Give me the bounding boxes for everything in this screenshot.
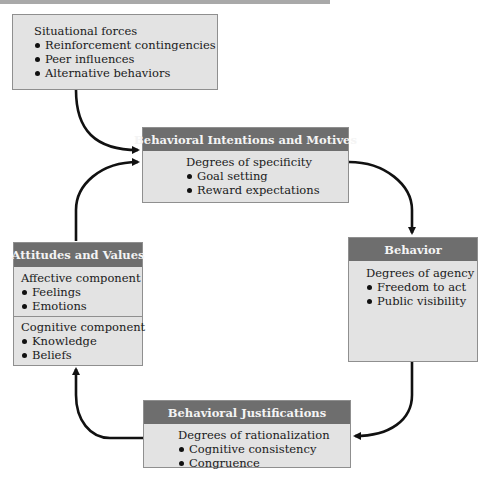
list-item: Public visibility: [366, 294, 477, 308]
list-item: Alternative behaviors: [34, 66, 217, 80]
justifications-subtitle: Degrees of rationalization: [178, 428, 350, 442]
list-item: Feelings: [21, 285, 142, 299]
behavior-subtitle: Degrees of agency: [366, 266, 477, 280]
bullet-icon: [187, 174, 192, 179]
attitudes-box: Attitudes and Values Affective component…: [13, 242, 143, 366]
list-item: Beliefs: [21, 348, 142, 362]
situational-title: Situational forces: [34, 24, 217, 38]
intentions-box: Behavioral Intentions and Motives Degree…: [142, 127, 349, 203]
justifications-header: Behavioral Justifications: [144, 401, 350, 424]
list-item: Peer influences: [34, 52, 217, 66]
bullet-icon: [35, 57, 40, 62]
justifications-box: Behavioral Justifications Degrees of rat…: [143, 400, 351, 468]
bullet-icon: [22, 339, 27, 344]
bullet-icon: [35, 71, 40, 76]
list-item: Reinforcement contingencies: [34, 38, 217, 52]
intentions-subtitle: Degrees of specificity: [186, 155, 348, 169]
arrow-situational-to-intentions: [76, 90, 138, 150]
list-item: Knowledge: [21, 334, 142, 348]
arrow-behavior-to-justifications: [355, 362, 412, 436]
bullet-icon: [22, 290, 27, 295]
list-item: Freedom to act: [366, 280, 477, 294]
bullet-icon: [179, 447, 184, 452]
arrow-intentions-to-behavior: [349, 162, 412, 233]
intentions-header: Behavioral Intentions and Motives: [143, 128, 348, 151]
arrow-attitudes-to-intentions: [76, 162, 138, 241]
bullet-icon: [35, 43, 40, 48]
bullet-icon: [179, 461, 184, 466]
bullet-icon: [367, 285, 372, 290]
behavior-header: Behavior: [349, 238, 477, 261]
list-item: Cognitive consistency: [178, 442, 350, 456]
list-item: Congruence: [178, 456, 350, 470]
list-item: Emotions: [21, 299, 142, 313]
list-item: Goal setting: [186, 169, 348, 183]
list-item: Reward expectations: [186, 183, 348, 197]
cognitive-title: Cognitive component: [21, 320, 142, 334]
arrow-justifications-to-attitudes: [76, 369, 143, 438]
behavior-box: Behavior Degrees of agency Freedom to ac…: [348, 237, 478, 362]
bullet-icon: [187, 188, 192, 193]
bullet-icon: [22, 304, 27, 309]
attitudes-header: Attitudes and Values: [14, 243, 142, 267]
bullet-icon: [22, 353, 27, 358]
affective-title: Affective component: [21, 271, 142, 285]
situational-forces-box: Situational forces Reinforcement conting…: [12, 14, 218, 90]
bullet-icon: [367, 299, 372, 304]
